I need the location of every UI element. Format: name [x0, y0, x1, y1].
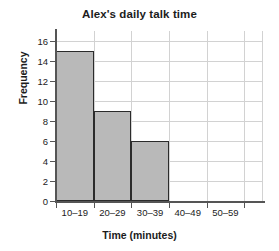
y-tick-mark: [50, 201, 55, 202]
y-tick-label: 12: [18, 76, 48, 87]
x-axis-label: Time (minutes): [0, 229, 279, 241]
x-tick-mark: [244, 203, 245, 208]
gridline-horizontal: [56, 41, 263, 42]
chart-title: Alex's daily talk time: [0, 8, 279, 20]
y-tick-label: 0: [18, 196, 48, 207]
y-tick-mark: [50, 81, 55, 82]
y-tick-label: 16: [18, 36, 48, 47]
bar: [131, 141, 169, 201]
x-tick-label: 20–29: [94, 207, 132, 218]
y-tick-mark: [50, 41, 55, 42]
y-tick-label: 14: [18, 56, 48, 67]
y-tick-mark: [50, 181, 55, 182]
bar: [56, 51, 94, 201]
plot-area: [56, 31, 263, 201]
chart-figure: Alex's daily talk time Frequency 0246810…: [0, 0, 279, 251]
x-tick-label: 10–19: [56, 207, 94, 218]
y-tick-mark: [50, 161, 55, 162]
x-tick-label: 40–49: [169, 207, 207, 218]
x-tick-label: 30–39: [131, 207, 169, 218]
y-tick-mark: [50, 61, 55, 62]
y-tick-mark: [50, 101, 55, 102]
gridline-vertical: [244, 31, 245, 201]
x-tick-label: 50–59: [207, 207, 245, 218]
bar: [94, 111, 132, 201]
y-axis-line: [55, 29, 57, 203]
y-tick-mark: [50, 121, 55, 122]
y-tick-label: 6: [18, 136, 48, 147]
y-tick-mark: [50, 141, 55, 142]
y-tick-label: 8: [18, 116, 48, 127]
gridline-vertical: [169, 31, 170, 201]
x-axis-line: [55, 201, 265, 203]
gridline-vertical: [207, 31, 208, 201]
y-tick-label: 2: [18, 176, 48, 187]
gridline-vertical: [262, 31, 263, 201]
y-tick-label: 4: [18, 156, 48, 167]
y-tick-label: 10: [18, 96, 48, 107]
